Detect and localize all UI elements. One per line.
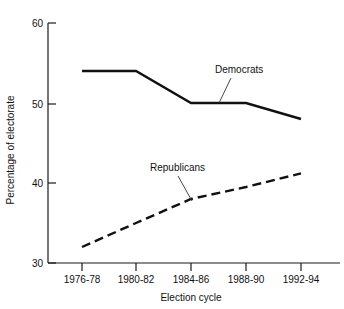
annotation-democrats: Democrats (215, 64, 263, 103)
y-axis-title: Percentage of electorate (5, 95, 16, 204)
annotation-label-democrats: Democrats (215, 64, 263, 75)
line-chart-svg: 60 50 40 30 1976-78 1980-82 1984-86 1988… (0, 0, 344, 309)
chart-figure: 60 50 40 30 1976-78 1980-82 1984-86 1988… (0, 0, 344, 309)
x-tick-label-4: 1988-90 (228, 274, 265, 285)
series-line-republicans (82, 173, 301, 247)
y-axis-ticks: 60 50 40 30 (32, 18, 56, 269)
series-group (82, 71, 301, 247)
x-axis-title: Election cycle (160, 292, 222, 303)
x-tick-label-1: 1976-78 (64, 274, 101, 285)
annotation-leader-democrats (219, 78, 231, 103)
series-line-democrats (82, 71, 301, 119)
x-tick-label-5: 1992-94 (283, 274, 320, 285)
y-tick-label-30: 30 (32, 258, 44, 269)
annotation-label-republicans: Republicans (150, 162, 205, 173)
annotation-leader-republicans (178, 176, 192, 201)
y-tick-label-50: 50 (32, 99, 44, 110)
annotation-republicans: Republicans (150, 162, 205, 201)
x-tick-label-3: 1984-86 (173, 274, 210, 285)
y-tick-label-40: 40 (32, 178, 44, 189)
x-axis-ticks: 1976-78 1980-82 1984-86 1988-90 1992-94 (64, 263, 320, 285)
axes (48, 23, 340, 263)
y-tick-label-60: 60 (32, 18, 44, 29)
x-tick-label-2: 1980-82 (118, 274, 155, 285)
